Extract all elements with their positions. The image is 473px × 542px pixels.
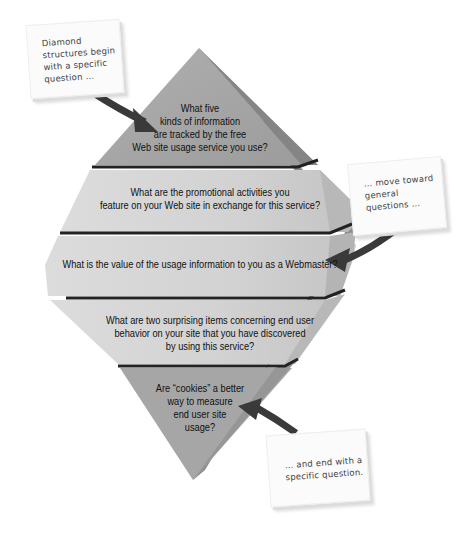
note-bottom-text: … and end with a specific question. [284,454,363,483]
band-1-question: What five kinds of information are track… [130,102,271,154]
band-4-line: What are two surprising items concerning… [78,314,342,327]
note-middle: … move toward general questions … [347,156,447,236]
diamond-diagram: What five kinds of information are track… [0,0,473,542]
note-middle-text: … move toward general questions … [363,172,436,214]
band-1-line: What five [130,102,271,115]
band-5-line: Are “cookies” a better [138,382,261,395]
note-top-text: Diamond structures begin with a specific… [41,32,117,85]
band-1-line: kinds of information [130,115,271,128]
band-2-line: feature on your Web site in exchange for… [78,199,342,212]
band-2-question: What are the promotional activities you … [78,186,342,212]
band-5-line: end user site [138,408,261,421]
band-3-line: What is the value of the usage informati… [59,258,341,271]
band-4-question: What are two surprising items concerning… [78,314,342,353]
band-4-line: behavior on your site that you have disc… [78,327,342,340]
band-1-line: are tracked by the free [130,128,271,141]
band-5-line: usage? [138,421,261,434]
note-bottom: … and end with a specific question. [266,429,371,508]
band-4-line: by using this service? [78,340,342,353]
band-3-question: What is the value of the usage informati… [59,258,341,271]
band-5-line: way to measure [138,395,261,408]
band-2-line: What are the promotional activities you [78,186,342,199]
band-5-question: Are “cookies” a better way to measure en… [138,382,261,434]
band-1-line: Web site usage service you use? [130,141,271,154]
note-top: Diamond structures begin with a specific… [26,19,125,99]
